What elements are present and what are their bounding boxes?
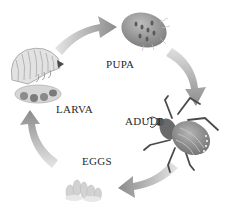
arrow-pupa-to-adult xyxy=(166,48,206,106)
adult-beetle-illustration xyxy=(144,96,218,172)
label-larva: LARVA xyxy=(56,103,93,115)
label-adult: ADULT xyxy=(125,115,163,127)
label-pupa: PUPA xyxy=(106,58,134,70)
eggs-illustration xyxy=(65,180,102,202)
diagram-graphics xyxy=(0,0,231,210)
life-cycle-diagram: PUPA ADULT EGGS LARVA xyxy=(0,0,231,210)
label-eggs: EGGS xyxy=(82,155,112,167)
larva-illustration xyxy=(11,48,64,103)
pupa-illustration xyxy=(117,8,170,53)
arrow-larva-to-pupa xyxy=(55,16,117,55)
arrow-eggs-to-larva xyxy=(20,110,58,168)
